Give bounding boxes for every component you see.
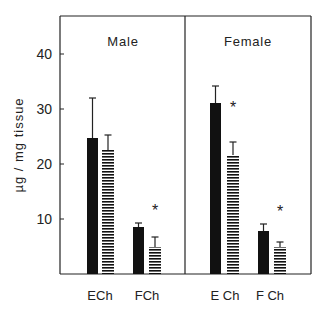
y-axis-label: µg / mg tissue (11, 97, 26, 192)
bar-female-fch-solid (258, 231, 269, 274)
bar-female-ech-hatched (227, 155, 239, 274)
y-tick-40: 40 (36, 46, 52, 62)
female-fch-group (258, 224, 286, 274)
bar-female-fch-hatched (274, 247, 286, 274)
bar-female-ech-solid (210, 103, 221, 274)
panel-title-male: Male (107, 34, 138, 49)
x-label-female-ech: E Ch (211, 288, 240, 303)
male-fch-group (133, 223, 161, 274)
bar-male-ech-hatched (102, 150, 114, 274)
x-label-male-ech: ECh (87, 288, 112, 303)
male-ech-group (87, 98, 114, 274)
bar-chart: 10 20 30 40 µg / mg tissue Male Female *… (0, 0, 327, 312)
panel-title-female: Female (224, 34, 272, 49)
bar-male-fch-solid (133, 227, 144, 274)
y-tick-30: 30 (36, 101, 52, 117)
y-tick-10: 10 (36, 211, 52, 227)
x-label-male-fch: FCh (135, 288, 160, 303)
x-label-female-fch: F Ch (256, 288, 284, 303)
significance-asterisk-female-fch: * (277, 203, 283, 220)
bar-male-fch-hatched (149, 247, 161, 274)
significance-asterisk-female-ech: * (230, 99, 236, 116)
significance-asterisk-male-fch: * (152, 202, 158, 219)
y-tick-20: 20 (36, 156, 52, 172)
bar-male-ech-solid (87, 138, 98, 274)
